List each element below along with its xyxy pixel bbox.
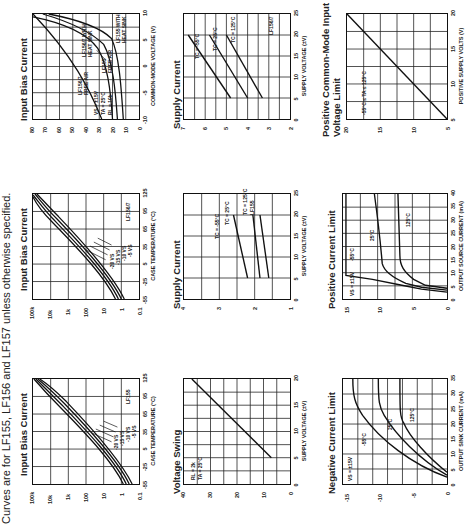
label-tc-125: TC = 125°C <box>242 189 248 215</box>
y-tick: 100k <box>29 307 35 319</box>
plot-area: -20 VS -15 VS -10 VS -5 VS LF156/7 <box>32 193 140 300</box>
label-25c: 25°C <box>369 230 375 241</box>
x-axis-label: SUPPLY VOLTAGE (±V) <box>301 36 307 97</box>
y-tick: 20 <box>110 127 116 133</box>
y-tick: 10 <box>411 127 417 133</box>
y-tick: 15 <box>344 307 350 313</box>
x-tick: 35 <box>450 375 456 381</box>
x-axis-label: SUPPLY VOLTAGE (±V) <box>301 401 307 462</box>
chart-positive-current-limit: Positive Current Limit VS = ±15V -55°C 2… <box>320 171 468 321</box>
chart-voltage-swing: Voltage Swing RL = 2k TA = 25°C 40 30 20… <box>165 356 310 506</box>
x-tick: -55 <box>142 481 148 489</box>
y-tick: 1 <box>119 493 125 496</box>
x-tick: 30 <box>450 217 456 223</box>
plot-area: VS = ±15V -55°C 25°C 125°C <box>342 378 448 485</box>
chart-input-bias-current-lf155: Input Bias Current -20 VS -15 VS <box>14 356 159 506</box>
x-tick: 10 <box>450 81 456 87</box>
x-axis-label: POSITIVE SUPPLY VOLTS (V) <box>458 28 464 105</box>
y-tick: 40 <box>180 492 186 498</box>
x-tick: 125 <box>142 188 148 197</box>
x-tick: 10 <box>293 254 299 260</box>
label-25c: 25°C <box>387 419 393 430</box>
x-tick: 95 <box>142 208 148 214</box>
y-tick: 7 <box>180 127 186 130</box>
label-tc-minus-55: TC = -55°C <box>194 34 200 59</box>
x-tick: 35 <box>450 203 456 209</box>
y-tick: 5 <box>445 127 451 130</box>
chart-input-bias-current-vs-cmv: Input Bias Current VS = ±15V TA = 25°C R… <box>14 0 159 141</box>
device-label: LF155 <box>125 390 131 404</box>
x-axis-label: OUTPUT SOURCE CURRENT (mA) <box>458 201 464 291</box>
x-tick: -25 <box>142 463 148 471</box>
x-tick: -55 <box>142 296 148 304</box>
chart-title: Positive Current Limit <box>326 210 337 309</box>
y-tick: 70 <box>42 127 48 133</box>
x-tick: 0 <box>450 298 456 301</box>
chart-negative-current-limit: Negative Current Limit VS = ±15V -55°C 2… <box>320 356 468 506</box>
chart-input-bias-current-lf156-7: Input Bias Current -20 VS -15 VS <box>14 171 159 321</box>
y-tick: 3 <box>216 307 222 310</box>
label-minus-55c: -55°C <box>361 433 367 446</box>
x-tick: 20 <box>293 211 299 217</box>
y-tick: 4 <box>245 127 251 130</box>
plot-area: -55°C ≤ TA ≤ 125°C <box>346 13 448 120</box>
x-tick: 10 <box>293 74 299 80</box>
plot-svg <box>184 194 290 299</box>
condition-vs: VS = ±15V <box>349 272 355 296</box>
x-tick: 25 <box>450 406 456 412</box>
y-tick: 50 <box>69 127 75 133</box>
x-tick: 65 <box>142 226 148 232</box>
condition-vs: VS = ±15V <box>93 91 99 115</box>
y-tick: 5 <box>411 307 417 310</box>
x-tick: 5 <box>142 262 148 265</box>
chart-supply-current-lf155: Supply Current TC = -55°C TC = 25°C TC =… <box>165 171 310 321</box>
y-tick: 2 <box>252 307 258 310</box>
x-tick: 15 <box>450 46 456 52</box>
legend-vs-5: -5 VS <box>131 425 137 438</box>
x-tick: 5 <box>293 277 299 280</box>
x-tick: 125 <box>142 373 148 382</box>
chart-title: Input Bias Current <box>18 393 29 476</box>
chart-title: Voltage Swing <box>171 430 182 494</box>
y-tick: 0 <box>445 492 451 495</box>
condition-rl: RL = 10k <box>107 94 113 115</box>
y-tick: 10k <box>47 310 53 319</box>
label-lf155-free-air: LF155 FREE AIR <box>101 45 113 73</box>
x-tick: -5 <box>142 91 148 96</box>
x-tick: 5 <box>142 447 148 450</box>
y-tick: 30 <box>96 127 102 133</box>
device-label: LF156/7 <box>268 16 274 35</box>
label-minus-55c: -55°C <box>349 248 355 261</box>
label-tc-minus-55: TC = -55°C <box>214 214 220 239</box>
x-tick: 35 <box>142 244 148 250</box>
label-tc-25: TC = 25°C <box>224 201 230 225</box>
plot-svg <box>184 14 290 119</box>
x-axis-label: SUPPLY VOLTAGE (±V) <box>301 216 307 277</box>
x-tick: 15 <box>450 436 456 442</box>
x-tick: 0 <box>293 483 299 486</box>
y-tick: 0 <box>445 307 451 310</box>
x-axis-label: CASE TEMPERATURE (°C) <box>150 396 156 466</box>
x-tick: 10 <box>450 270 456 276</box>
label-125c: 125°C <box>405 213 411 227</box>
y-tick: 100 <box>83 308 89 317</box>
plot-area: RL = 2k TA = 25°C <box>183 378 291 485</box>
y-tick: 1k <box>65 309 71 315</box>
y-tick: 30 <box>207 492 213 498</box>
device-label: LF156/7 <box>125 202 131 221</box>
x-tick: 5 <box>293 97 299 100</box>
x-tick: 5 <box>450 468 456 471</box>
x-tick: 0 <box>293 118 299 121</box>
y-tick: 80 <box>29 127 35 133</box>
x-tick: 5 <box>450 285 456 288</box>
y-tick: -15 <box>344 494 350 502</box>
y-tick: 0.1 <box>137 307 143 315</box>
chart-title: Supply Current <box>171 240 182 309</box>
x-tick: 25 <box>293 190 299 196</box>
y-tick: 1 <box>119 308 125 311</box>
x-tick: 10 <box>142 10 148 16</box>
chart-supply-current-lf156-7: Supply Current TC = -55°C TC = 25°C TC =… <box>165 0 310 141</box>
x-tick: 15 <box>293 53 299 59</box>
plot-area: VS = ±15V -55°C 25°C 125°C <box>342 193 448 300</box>
x-tick: 95 <box>142 393 148 399</box>
